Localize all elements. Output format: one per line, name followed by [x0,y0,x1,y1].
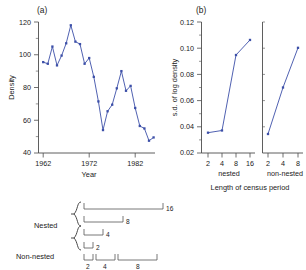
nonnested-bracket-8-label: 8 [136,263,140,270]
panel-b-label: (b) [196,5,206,15]
panel-a-series-point [51,45,53,47]
panel-a-series-point [65,42,67,44]
panel-b-x-axis-label: Length of census period [211,183,290,192]
panel-b-y-ticks: 0.12 0.10 0.08 0.06 0.04 0.02 [180,18,202,158]
panel-a-series-point [129,85,131,87]
panel-a-ytick-60: 60 [23,116,31,125]
panel-a-ytick-120: 120 [19,18,31,27]
panel-a: (a) 120 100 80 60 40 [7,5,155,179]
panel-b-nonnested-series [267,47,299,135]
panel-a-ytick-100: 100 [19,50,31,59]
panel-b-nested-xtick-4: 4 [220,159,224,168]
panel-a-series-point [125,90,127,92]
panel-b-nonnested-series-point [282,86,284,88]
panel-a-series-point [60,54,62,56]
panel-b-nested-series [207,39,251,134]
nested-bracket-16-label: 16 [166,205,174,212]
figure-svg: (a) 120 100 80 60 40 [0,0,306,270]
panel-b-nonnested-group-label: non-nested [267,169,303,178]
panel-b-nested-series-point [249,39,251,41]
panel-b-nested-xtick-8: 8 [234,159,238,168]
panel-a-series-point [70,24,72,26]
panel-b-nonnested-xtick-2: 2 [266,159,270,168]
panel-b-nonnested-xtick-4: 4 [281,159,285,168]
panel-a-x-axis-label: Year [82,170,97,179]
panel-a-series-point [152,136,154,138]
panel-b-nested-x-ticks: 2 4 8 16 nested [206,153,254,178]
nested-bracket-8: 8 [84,216,130,225]
panel-b-nested-series-point [235,54,237,56]
nested-bracket-2-label: 2 [96,244,100,251]
panel-a-series-point [116,87,118,89]
nonnested-bracket-2: 2 [84,254,93,270]
panel-b-nonnested-series-line [268,48,298,134]
nonnested-bracket-4-label: 4 [103,263,107,270]
panel-b-nonnested-series-point [267,133,269,135]
panel-a-series-point [47,63,49,65]
panel-b-nested-series-point [207,132,209,134]
panel-b-nested-series-line [208,40,250,133]
panel-a-series-point [102,129,104,131]
panel-a-series-point [134,107,136,109]
panel-a-series-point [74,41,76,43]
panel-a-series-point [79,43,81,45]
panel-b-nested-xtick-16: 16 [246,159,254,168]
panel-b-ytick-008: 0.08 [180,70,194,79]
panel-a-series-point [139,125,141,127]
panel-b-nonnested-series-point [297,47,299,49]
panel-a-series-point [42,61,44,63]
panel-a-ytick-80: 80 [23,83,31,92]
nonnested-bracket-2-label: 2 [86,263,90,270]
census-schematic: Nested Non-nested 16 8 4 2 [16,202,174,270]
panel-b-ytick-012: 0.12 [180,18,194,27]
panel-b-nested-series-point [221,129,223,131]
nonnested-bracket-8: 8 [118,254,157,270]
panel-a-series-point [106,110,108,112]
panel-a-ytick-40: 40 [23,148,31,157]
panel-b-ytick-004: 0.04 [180,122,194,131]
panel-a-xtick-1982: 1982 [127,159,143,168]
schematic-nested-label: Nested [34,221,57,230]
nested-bracket-8-label: 8 [126,218,130,225]
nested-brace [71,202,81,250]
panel-a-xtick-1972: 1972 [81,159,97,168]
panel-b-y-axis-label: s.d. of log density [170,58,179,116]
panel-b-ytick-002: 0.02 [180,148,194,157]
panel-a-y-ticks: 120 100 80 60 40 [19,18,39,158]
panel-b-ytick-010: 0.10 [180,44,194,53]
panel-a-xtick-1962: 1962 [35,159,51,168]
schematic-nonnested-label: Non-nested [16,252,54,261]
panel-a-series-point [120,70,122,72]
nested-bracket-16: 16 [84,203,174,212]
panel-a-series-point [111,104,113,106]
panel-a-series-point [143,127,145,129]
nested-bracket-2: 2 [84,242,100,251]
panel-b-ytick-006: 0.06 [180,96,194,105]
nested-bracket-4-label: 4 [106,231,110,238]
panel-b: (b) 0.12 0.10 0.08 0.06 0.04 0.02 [170,5,303,192]
panel-a-label: (a) [37,5,47,15]
panel-a-series [42,24,155,142]
panel-a-y-axis-label: Density [7,75,16,100]
panel-a-series-point [83,63,85,65]
panel-a-series-point [56,64,58,66]
panel-b-nonnested-x-ticks: 2 4 8 non-nested [266,153,303,178]
panel-b-nonnested-xtick-8: 8 [296,159,300,168]
panel-a-x-ticks: 1962 1972 1982 [35,153,143,168]
figure-root: (a) 120 100 80 60 40 [0,0,306,270]
panel-a-series-point [93,76,95,78]
panel-b-nested-group-label: nested [218,169,240,178]
nested-bracket-4: 4 [84,229,110,238]
panel-a-series-point [88,57,90,59]
panel-a-series-point [148,140,150,142]
panel-a-series-point [97,100,99,102]
nonnested-bracket-4: 4 [96,254,115,270]
panel-a-series-line [43,25,153,140]
panel-b-nested-xtick-2: 2 [206,159,210,168]
